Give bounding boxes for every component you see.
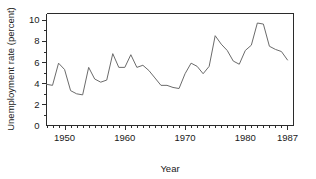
y-tick-label: 2	[34, 99, 39, 110]
x-tick-label: 1970	[174, 132, 195, 143]
x-axis-ticks	[48, 126, 288, 131]
x-axis-title: Year	[160, 163, 179, 174]
x-axis-tick-labels: 19501960197019801987	[54, 132, 298, 143]
x-tick-label: 1980	[235, 132, 256, 143]
y-axis-tick-labels: 0246810	[29, 14, 40, 131]
y-tick-label: 10	[29, 14, 40, 25]
x-tick-label: 1960	[114, 132, 135, 143]
x-tick-label: 1987	[277, 132, 298, 143]
chart-figure: 19501960197019801987 0246810 Year Unempl…	[0, 0, 316, 179]
y-tick-label: 4	[34, 78, 39, 89]
y-axis-title: Unemployment rate (percent)	[5, 7, 16, 131]
unemployment-rate-line-chart: 19501960197019801987 0246810 Year Unempl…	[0, 0, 316, 179]
y-tick-label: 0	[34, 120, 39, 131]
y-tick-label: 6	[34, 57, 39, 68]
y-tick-label: 8	[34, 35, 39, 46]
unemployment-rate-series	[47, 23, 288, 95]
plot-frame	[47, 14, 294, 126]
x-tick-label: 1950	[54, 132, 75, 143]
y-axis-ticks	[42, 21, 47, 116]
